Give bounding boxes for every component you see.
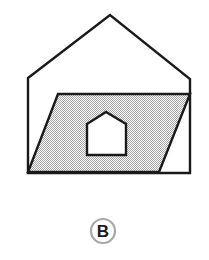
figure-panel: B (0, 0, 209, 260)
option-badge: B (91, 219, 115, 243)
option-badge-letter: B (97, 222, 109, 241)
figure-svg: B (0, 0, 209, 260)
